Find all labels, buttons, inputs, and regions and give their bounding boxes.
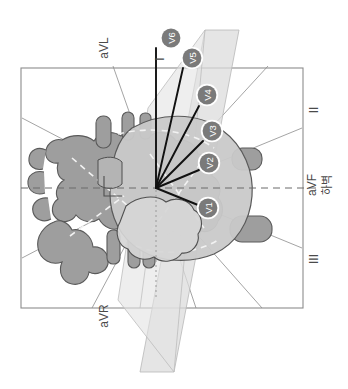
lead-label-i: I <box>153 57 167 60</box>
lead-badge-v1[interactable]: V1 <box>197 197 219 219</box>
lead-badge-v3[interactable]: V3 <box>201 120 223 142</box>
badge-label: V1 <box>203 202 214 214</box>
inferior-wall-label: 하벽 <box>320 175 333 195</box>
lead-label-avf: aVF <box>305 174 319 196</box>
badge-label: V6 <box>166 32 177 44</box>
lead-badge-v5[interactable]: V5 <box>181 47 203 69</box>
lead-label-iii: III <box>307 254 321 264</box>
lead-label-avr: aVR <box>97 304 111 328</box>
badge-label: V4 <box>202 89 213 101</box>
diagram-canvas: V6V5V4V3V2V1 IIIIIIaVRaVLaVF 하벽 <box>0 0 348 389</box>
badge-label: V3 <box>207 125 218 137</box>
lead-badge-v4[interactable]: V4 <box>196 84 218 106</box>
vessel-stub-sup-1 <box>96 116 111 148</box>
ecg-lead-axis-figure: V6V5V4V3V2V1 IIIIIIaVRaVLaVF 하벽 <box>0 0 348 389</box>
vessel-branch-2 <box>28 172 45 194</box>
lead-badge-v2[interactable]: V2 <box>198 152 220 174</box>
badge-label: V2 <box>204 157 215 169</box>
lead-badge-v6[interactable]: V6 <box>160 27 182 49</box>
lead-label-avl: aVL <box>97 37 111 59</box>
septal-notch <box>98 157 122 188</box>
badge-label: V5 <box>187 52 198 64</box>
lead-label-ii: II <box>307 107 321 114</box>
atrial-appendage <box>117 197 201 261</box>
